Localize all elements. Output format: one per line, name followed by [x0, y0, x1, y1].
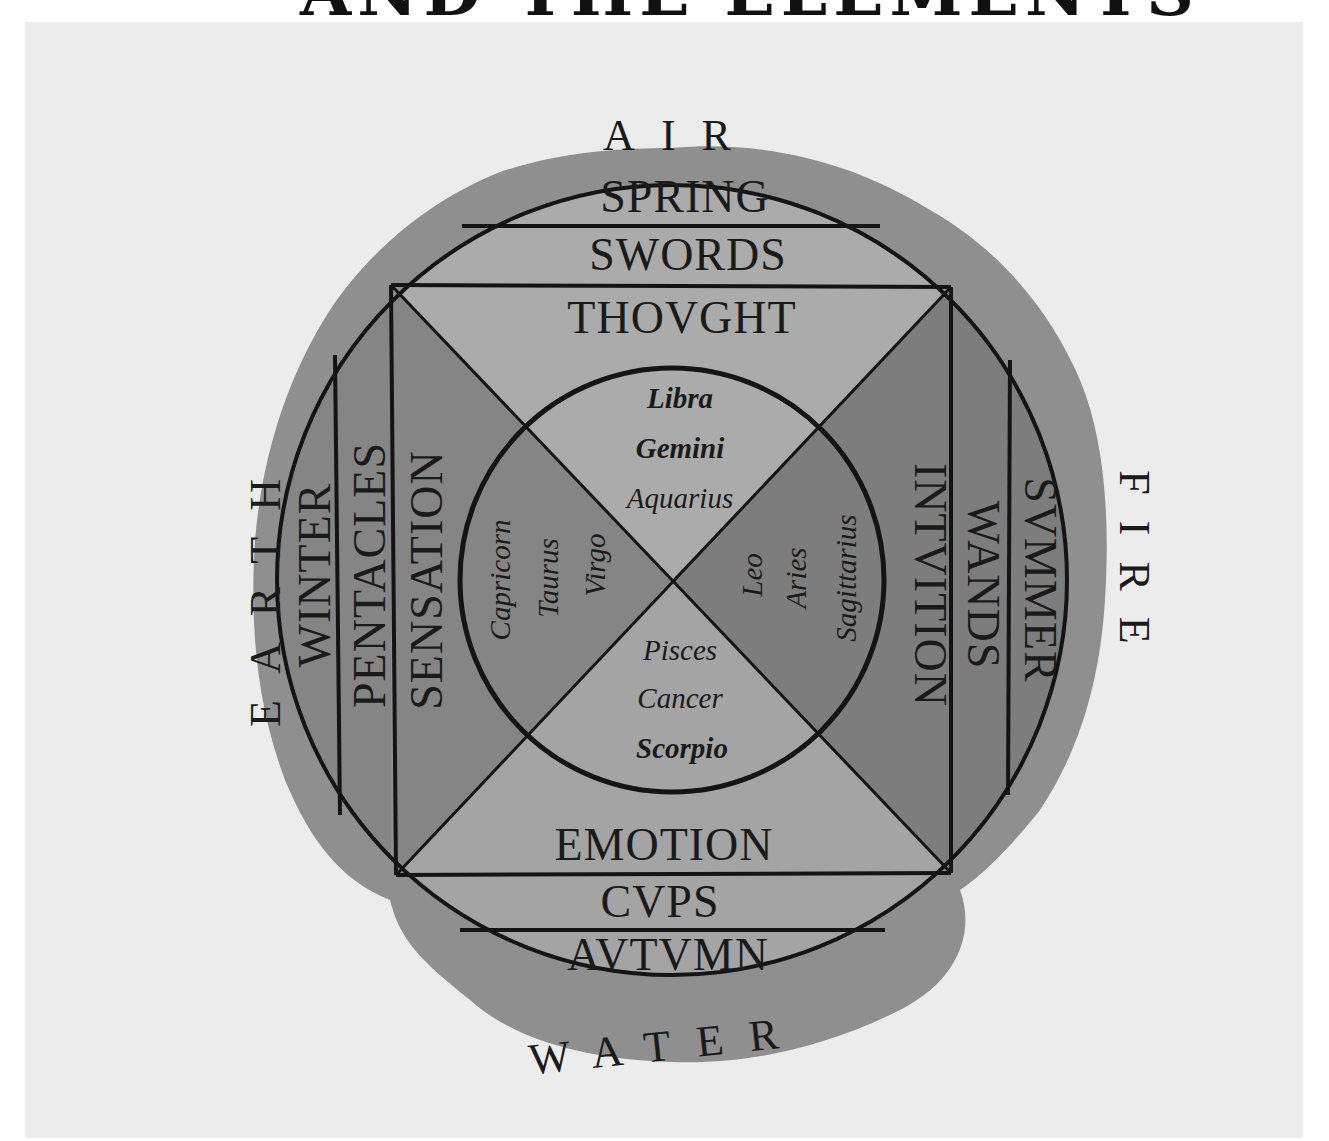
bottom-season: AVTVMN — [567, 929, 769, 980]
left-suit: PENTACLES — [344, 442, 395, 708]
diagram-page: AND THE ELEMENTS — [0, 0, 1329, 1141]
right-season: SVMMER — [1015, 477, 1066, 682]
right-function: INTVITION — [905, 463, 956, 707]
elements-wheel-diagram: AIR FIRE WATER EARTH SPRING SWORDS THOVG… — [0, 0, 1329, 1141]
sign-scorpio: Scorpio — [636, 732, 728, 764]
sign-capricorn: Capricorn — [484, 520, 516, 641]
element-earth: EARTH — [241, 453, 290, 727]
element-fire: FIRE — [1110, 470, 1159, 669]
sign-gemini: Gemini — [636, 432, 725, 464]
top-season: SPRING — [600, 171, 770, 222]
sign-aquarius: Aquarius — [625, 482, 733, 514]
sign-virgo: Virgo — [579, 534, 611, 597]
sign-cancer: Cancer — [637, 682, 723, 714]
left-season: WINTER — [289, 483, 340, 668]
page-title: AND THE ELEMENTS — [300, 0, 1060, 24]
top-function: THOVGHT — [567, 292, 796, 343]
bottom-suit: CVPS — [600, 876, 719, 927]
top-suit: SWORDS — [589, 229, 787, 280]
sign-leo: Leo — [736, 553, 768, 598]
sign-libra: Libra — [646, 382, 713, 414]
right-suit: WANDS — [958, 501, 1009, 670]
bottom-function: EMOTION — [554, 819, 773, 870]
sign-aries: Aries — [780, 547, 812, 610]
left-function: SENSATION — [401, 450, 452, 709]
sign-pisces: Pisces — [642, 634, 717, 666]
sign-taurus: Taurus — [532, 538, 564, 618]
sign-sagittarius: Sagittarius — [830, 514, 862, 641]
element-air: AIR — [603, 111, 757, 160]
